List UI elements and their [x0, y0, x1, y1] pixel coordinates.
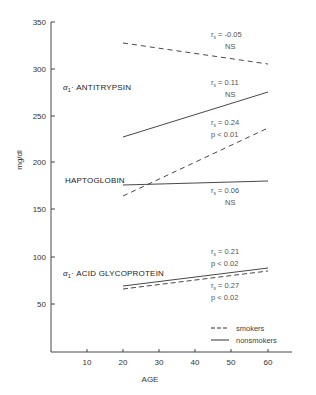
axes — [51, 22, 292, 352]
x-tick-label: 40 — [191, 358, 200, 367]
stat-agp-smokers-p: p < 0.02 — [211, 293, 238, 302]
legend-nonsmokers-label: nonsmokers — [236, 336, 277, 345]
stat-haptoglobin-smokers-p: p < 0.01 — [211, 130, 238, 139]
x-axis-title: AGE — [142, 375, 159, 384]
series-lines — [123, 43, 268, 289]
stat-antitrypsin-nonsmokers-p: NS — [225, 90, 235, 99]
x-tick-label: 30 — [155, 358, 164, 367]
y-tick-label: 50 — [37, 300, 46, 309]
line-haptoglobin-nonsmokers — [123, 181, 268, 185]
stat-agp-smokers-rs: rs = 0.27 — [211, 281, 239, 291]
stat-antitrypsin-smokers-p: NS — [225, 42, 235, 51]
stat-haptoglobin-nonsmokers-rs: rs = 0.06 — [211, 186, 239, 196]
legend: smokers nonsmokers — [211, 324, 277, 345]
line-antitrypsin-nonsmokers — [123, 92, 268, 137]
y-tick-label: 150 — [33, 205, 47, 214]
stat-agp-nonsmokers-p: p < 0.02 — [211, 259, 238, 268]
x-tick-label: 20 — [119, 358, 128, 367]
x-tick-labels: 10 20 30 40 50 60 — [83, 358, 273, 367]
y-tick-labels: 350 300 250 200 150 100 50 — [33, 18, 47, 309]
y-tick-label: 300 — [33, 65, 47, 74]
label-antitrypsin: α1· ANTITRYPSIN — [63, 83, 131, 93]
line-antitrypsin-smokers — [123, 43, 268, 64]
y-tick-label: 200 — [33, 158, 47, 167]
chart-canvas: 350 300 250 200 150 100 50 10 20 30 40 5… — [0, 0, 316, 395]
legend-smokers-label: smokers — [236, 324, 265, 333]
y-tick-label: 250 — [33, 112, 47, 121]
line-haptoglobin-smokers — [123, 128, 268, 196]
stat-antitrypsin-nonsmokers-rs: rs = 0.11 — [211, 78, 239, 88]
stat-antitrypsin-smokers-rs: rs = -0.05 — [211, 30, 242, 40]
label-haptoglobin: HAPTOGLOBIN — [65, 176, 125, 185]
stat-haptoglobin-nonsmokers-p: NS — [225, 198, 235, 207]
stats-annotations: rs = -0.05 NS rs = 0.11 NS rs = 0.24 p <… — [211, 30, 242, 302]
label-acid-glycoprotein: α1· ACID GLYCOPROTEIN — [63, 269, 164, 279]
y-tick-label: 100 — [33, 253, 47, 262]
x-tick-label: 60 — [264, 358, 273, 367]
stat-haptoglobin-smokers-rs: rs = 0.24 — [211, 118, 239, 128]
x-tick-label: 10 — [83, 358, 92, 367]
stat-agp-nonsmokers-rs: rs = 0.21 — [211, 247, 239, 257]
x-tick-label: 50 — [227, 358, 236, 367]
y-tick-label: 350 — [33, 18, 47, 27]
y-axis-title: mg/dl — [15, 150, 24, 170]
